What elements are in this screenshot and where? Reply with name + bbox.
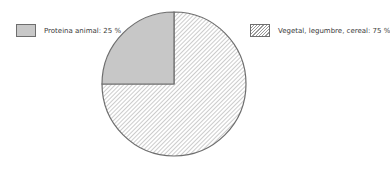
pie-slice-proteina	[102, 12, 174, 84]
legend-swatch-hatch	[250, 24, 270, 37]
legend-item-vegetal: Vegetal, legumbre, cereal: 75 %	[250, 24, 390, 37]
legend-label: Vegetal, legumbre, cereal: 75 %	[278, 27, 390, 35]
legend-swatch-solid	[16, 24, 36, 37]
legend-label: Proteina animal: 25 %	[44, 27, 121, 35]
legend-item-proteina: Proteina animal: 25 %	[16, 24, 121, 37]
